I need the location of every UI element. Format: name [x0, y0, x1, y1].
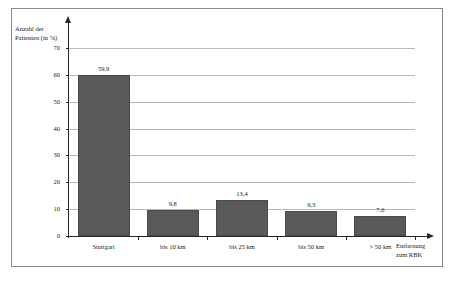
y-axis-arrow-icon	[65, 16, 71, 23]
y-tick-mark	[66, 236, 69, 237]
bar-value-label: 9,8	[153, 200, 193, 208]
x-category-label: Stuttgart	[74, 243, 134, 251]
bar	[285, 211, 337, 236]
y-tick-mark	[66, 209, 69, 210]
x-tick-mark	[277, 236, 278, 240]
y-tick-label: 10	[38, 205, 60, 212]
x-tick-mark	[415, 236, 416, 240]
y-tick-label: 40	[38, 125, 60, 132]
x-tick-mark	[346, 236, 347, 240]
bar	[78, 75, 130, 236]
y-tick-mark	[66, 48, 69, 49]
y-tick-mark	[66, 155, 69, 156]
chart-page: Anzahl der Patienten (in %) Entfernung z…	[0, 0, 454, 283]
x-axis-title-line2: zum RBK	[396, 251, 444, 260]
y-tick-label: 70	[38, 44, 60, 51]
x-axis-line	[69, 236, 428, 237]
y-tick-mark	[66, 182, 69, 183]
y-axis-line	[68, 22, 69, 238]
bar-value-label: 7,6	[360, 206, 400, 214]
y-tick-label: 0	[38, 232, 60, 239]
y-axis-title: Anzahl der Patienten (in %)	[15, 25, 67, 42]
bar	[147, 210, 199, 236]
bar-value-label: 9,3	[291, 201, 331, 209]
x-tick-mark	[138, 236, 139, 240]
x-category-label: > 50 km	[350, 243, 410, 251]
y-tick-label: 50	[38, 98, 60, 105]
x-category-label: bis 25 km	[212, 243, 272, 251]
bar	[354, 216, 406, 236]
x-tick-mark	[207, 236, 208, 240]
y-tick-label: 60	[38, 71, 60, 78]
y-tick-mark	[66, 75, 69, 76]
y-axis-title-line2: Patienten (in %)	[15, 34, 67, 43]
bar	[216, 200, 268, 236]
y-tick-mark	[66, 129, 69, 130]
bar-value-label: 13,4	[222, 190, 262, 198]
y-axis-title-line1: Anzahl der	[15, 25, 67, 34]
y-tick-label: 30	[38, 151, 60, 158]
x-axis-arrow-icon	[427, 233, 434, 239]
y-tick-mark	[66, 102, 69, 103]
y-tick-label: 20	[38, 178, 60, 185]
x-category-label: bis 50 km	[281, 243, 341, 251]
x-category-label: bis 10 km	[143, 243, 203, 251]
bar-value-label: 59,9	[84, 65, 124, 73]
gridline	[69, 48, 415, 49]
